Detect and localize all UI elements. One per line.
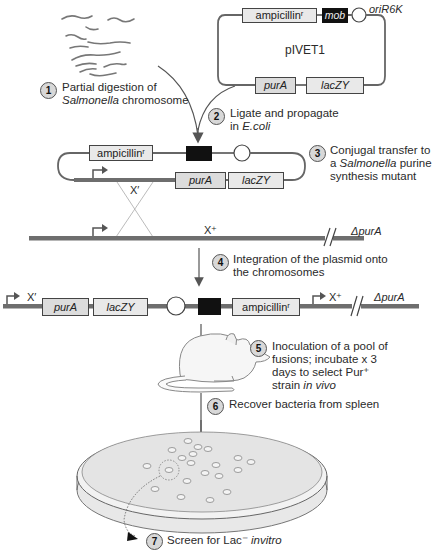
step-5-line2: fusions; incubate x 3: [272, 353, 377, 365]
step-5-line1: Inoculation of a pool of: [272, 340, 388, 352]
plasmid-purA-box: purA: [255, 77, 296, 94]
step-2-line1: Ligate and propagate: [230, 107, 339, 119]
dna-fragments-icon: [62, 16, 134, 76]
integrated-delta-purA-label: ΔpurA: [374, 291, 405, 304]
integrated-purA-box: purA: [42, 298, 89, 316]
petri-dish-icon: [77, 432, 327, 541]
step-7-italic: invitro: [251, 534, 282, 546]
step-5-line3: days to select Pur⁺: [272, 366, 369, 378]
step-4-badge: 4: [212, 254, 229, 271]
step-6-badge: 6: [207, 398, 224, 415]
step-4-text: Integration of the plasmid onto the chro…: [233, 253, 388, 279]
integrated-ampicillin-box: ampicillinʳ: [232, 298, 300, 316]
chromosome-line: [29, 224, 364, 246]
step-4-line2: the chromosomes: [233, 266, 324, 278]
mob-block: [186, 146, 212, 161]
mob-block: [198, 298, 221, 315]
screen-arrow-icon: [127, 532, 138, 541]
chromosome-x-plus-label: X⁺: [204, 224, 217, 237]
step-4-line1: Integration of the plasmid onto: [233, 253, 388, 265]
plasmid-lacZY-box: lacZY: [306, 77, 364, 94]
promoter-arrow-icon: [102, 166, 108, 174]
recombinant-purA-box: purA: [175, 172, 226, 189]
step-3-text: Conjugal transfer to a Salmonella purine…: [330, 144, 432, 183]
promoter-arrow-icon: [14, 292, 20, 300]
step-5-text: Inoculation of a pool of fusions; incuba…: [272, 340, 388, 392]
step-7-text: Screen for Lac⁻ invitro: [167, 534, 282, 547]
integrated-x-prime-label: X′: [27, 291, 36, 304]
step-7-line1: Screen for Lac⁻: [167, 534, 251, 546]
chromosome-delta-purA-label: ΔpurA: [351, 225, 382, 238]
plasmid-name: pIVET1: [285, 44, 325, 57]
plasmid-ampicillin-box: ampicillinʳ: [242, 8, 317, 23]
step-5-italic: in vivo: [303, 379, 336, 391]
step-2-badge: 2: [208, 108, 225, 125]
recombinant-lacZY-box: lacZY: [228, 172, 284, 189]
step-5-prefix: strain: [272, 379, 303, 391]
step-3-badge: 3: [309, 145, 326, 162]
ori-circle: [167, 297, 185, 315]
step-3-line1: Conjugal transfer to: [330, 144, 430, 156]
step-1-line1: Partial digestion of: [62, 81, 157, 93]
step-5-badge: 5: [250, 340, 267, 357]
step-2-italic: E.coli: [242, 120, 270, 132]
ori-circle: [352, 8, 366, 22]
step-3-italic: Salmonella: [340, 157, 397, 169]
step-1-italic: Salmonella: [62, 94, 119, 106]
step-1-badge: 1: [40, 82, 57, 99]
step-1-text: Partial digestion of Salmonella chromoso…: [62, 81, 189, 107]
step-2-text: Ligate and propagate in E.coli: [230, 107, 339, 133]
plasmid-mob-box: mob: [322, 8, 348, 23]
step-6-text: Recover bacteria from spleen: [229, 398, 379, 411]
step-3-line3: synthesis mutant: [330, 170, 416, 182]
step-1-line2: chromosome: [119, 94, 189, 106]
step-7-badge: 7: [146, 533, 163, 550]
recombinant-ampicillin-box: ampicillinʳ: [89, 145, 153, 161]
step-3-prefix: a: [330, 157, 340, 169]
plasmid-ori-label: oriR6K: [369, 3, 403, 16]
recombinant-x-prime-label: X′: [130, 184, 139, 197]
step-2-prefix: in: [230, 120, 242, 132]
integrated-x-plus-label: X⁺: [329, 291, 342, 304]
step-3-line2: purine: [397, 157, 432, 169]
promoter-arrow-icon: [102, 224, 108, 232]
integrated-lacZY-box: lacZY: [93, 298, 148, 316]
ori-circle: [234, 145, 250, 161]
promoter-arrow-icon: [320, 292, 326, 300]
